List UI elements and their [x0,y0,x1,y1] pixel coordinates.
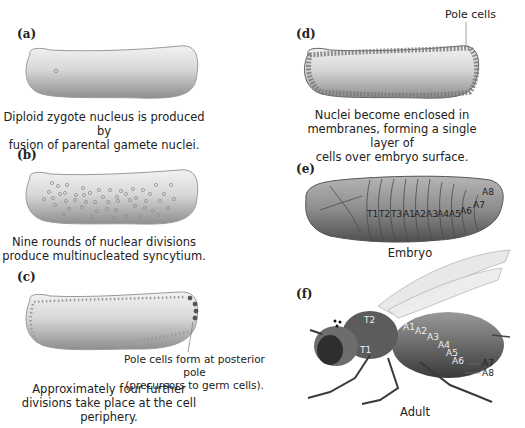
caption-e: Embryo [380,246,440,260]
callout-c-line-1: Pole cells form at posterior pole [112,353,277,379]
egg-c [26,292,198,352]
egg-d [304,22,478,98]
caption-a: Diploid zygote nucleus is produced by fu… [0,110,208,152]
caption-d-line-2: membranes, forming a single layer of [296,122,488,150]
caption-c-line-1: Approximately four further [4,382,214,396]
segment-label-t1: T1 [367,209,378,219]
panel-label-c: (c) [17,270,36,284]
segment-label-a7: A7 [473,200,485,210]
fly-callout-a7: A7 [482,358,494,368]
fly-label-a6: A6 [452,356,464,366]
segment-label-t3: T3 [391,209,402,219]
fly-callout-a8: A8 [482,368,494,378]
egg-b [26,170,198,224]
segment-label-a4: A4 [437,209,449,219]
caption-c: Approximately four further divisions tak… [4,382,214,424]
caption-d: Nuclei become enclosed in membranes, for… [296,108,488,164]
caption-b-line-2: produce multinucleated syncytium. [0,249,208,263]
egg-a [26,46,198,98]
segment-label-a8: A8 [482,187,494,197]
segment-label-a6: A6 [460,206,472,216]
fly-label-a2: A2 [415,326,427,336]
panel-label-b: (b) [17,148,37,162]
caption-c-line-2: divisions take place at the cell periphe… [4,396,214,424]
panel-label-d: (d) [296,27,316,41]
caption-f: Adult [390,405,440,419]
fly-label-t2: T2 [364,315,375,325]
caption-a-line-1: Diploid zygote nucleus is produced by [0,110,208,138]
segment-label-a2: A2 [414,209,426,219]
fly-label-a1: A1 [403,322,415,332]
caption-d-line-1: Nuclei become enclosed in [296,108,488,122]
caption-d-line-3: cells over embryo surface. [296,150,488,164]
panel-label-a: (a) [17,27,36,41]
callout-pole-cells-d: Pole cells [445,8,496,21]
fly-label-t1: T1 [360,345,371,355]
panel-label-f: (f) [296,287,313,301]
segment-label-t2: T2 [379,209,390,219]
caption-b: Nine rounds of nuclear divisions produce… [0,235,208,263]
caption-b-line-1: Nine rounds of nuclear divisions [0,235,208,249]
panel-label-e: (e) [296,162,315,176]
